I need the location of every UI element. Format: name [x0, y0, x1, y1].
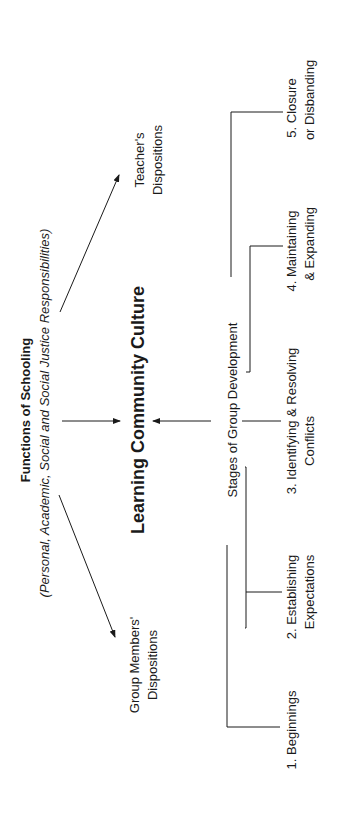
- stage-2-label-line1: 2. Establishing: [284, 555, 299, 640]
- learning-community-culture-title: Learning Community Culture: [128, 286, 148, 534]
- teachers-dispositions-line1: Teacher's: [132, 132, 147, 188]
- arrow-functions-to-group-members: [59, 495, 115, 637]
- stage-4-label-line1: 4. Maintaining: [284, 211, 299, 292]
- arrow-functions-to-teacher: [60, 175, 119, 312]
- stages-title: Stages of Group Development: [225, 322, 240, 497]
- teachers-dispositions-line2: Dispositions: [150, 124, 165, 195]
- group-members-dispositions-line1: Group Members': [127, 617, 142, 713]
- functions-of-schooling-title: Functions of Schooling: [18, 338, 33, 482]
- bracket-stage5: [231, 112, 283, 277]
- stage-2-label-line2: Expectations: [302, 554, 317, 629]
- bracket-stage1: [227, 545, 280, 727]
- diagram-canvas: Functions of Schooling (Personal, Academ…: [0, 0, 346, 819]
- stage-5-label-line2: or Disbanding: [302, 60, 317, 140]
- bracket-stage2-stub: [245, 592, 246, 628]
- stage-5-label-line1: 5. Closure: [284, 78, 299, 137]
- functions-of-schooling-subtitle: (Personal, Academic, Social and Social J…: [37, 229, 52, 598]
- bracket-stage4: [246, 246, 283, 372]
- group-members-dispositions-line2: Dispositions: [145, 629, 160, 700]
- stage-1-label: 1. Beginnings: [284, 690, 299, 769]
- stage-3-label-line2: Conflicts: [302, 416, 317, 466]
- stage-4-label-line2: & Expanding: [302, 207, 317, 281]
- stage-3-label-line1: 3. Identifying & Resolving: [284, 348, 299, 495]
- bracket-stage2: [245, 467, 282, 592]
